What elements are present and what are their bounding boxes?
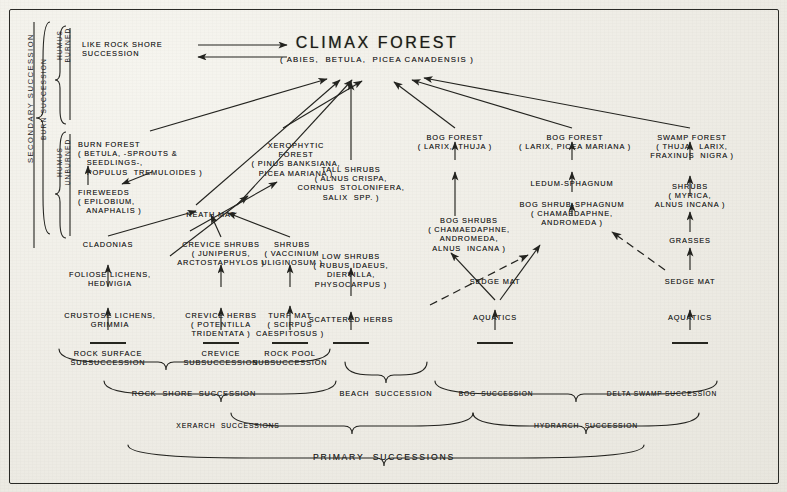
node-bog-shrub-sphagnum: BOG SHRUB-SPHAGNUM ( CHAMAEDAPHNE, ANDRO…	[520, 200, 625, 228]
node-shrubs-myrica: SHRUBS ( MYRICA, ALNUS INCANA )	[655, 182, 726, 210]
grouping-beach: BEACH SUCCESSION	[340, 389, 433, 398]
node-bog-forest-picea: BOG FOREST ( LARIX, PICEA MARIANA )	[519, 133, 631, 151]
node-heath-mat: HEATH MAT	[186, 210, 235, 219]
node-low-shrubs: LOW SHRUBS ( RUBUS IDAEUS, DIERVILLA, PH…	[314, 252, 389, 289]
node-foliose-lichens: FOLIOSE LICHENS, HEDWIGIA	[69, 270, 151, 288]
node-crustose-lichens: CRUSTOSE LICHENS, GRIMMIA	[64, 311, 156, 329]
node-swamp-forest: SWAMP FOREST ( THUJA, LARIX, FRAXINUS NI…	[650, 133, 733, 161]
subsuccession-rock-surface: ROCK SURFACE SUBSUCCESSION	[70, 349, 145, 367]
node-burn-forest: BURN FOREST ( BETULA, -SPROUTS & SEEDLIN…	[78, 140, 203, 177]
rule-rock-pool	[272, 342, 308, 344]
rule-delta	[672, 342, 708, 344]
burn-succession-label: BURN SUCCESSION	[40, 34, 49, 164]
grouping-primary: PRIMARY SUCCESSIONS	[313, 453, 455, 462]
node-cladonias: CLADONIAS	[83, 240, 133, 249]
node-like-rock-shore: LIKE ROCK SHORE SUCCESSION	[82, 40, 163, 58]
grouping-hydrarch: HYDRARCH SUCCESSION	[534, 421, 638, 430]
grouping-xerarch: XERARCH SUCCESSIONS	[176, 421, 280, 430]
grouping-bog: BOG SUCCESSION	[459, 389, 534, 398]
rule-rock-surface	[90, 342, 126, 344]
node-grasses: GRASSES	[669, 236, 711, 245]
diagram-canvas: SECONDARY SUCCESSION BURN SUCCESSION HUM…	[0, 0, 787, 492]
node-scattered-herbs: SCATTERED HERBS	[309, 315, 393, 324]
page-title-species: ( ABIES, BETULA, PICEA CANADENSIS )	[280, 55, 474, 64]
page-title: CLIMAX FOREST	[296, 33, 459, 52]
node-sedge-mat-delta: SEDGE MAT	[665, 277, 716, 286]
secondary-succession-label: SECONDARY SUCCESSION	[27, 18, 36, 178]
node-aquatics-delta: AQUATICS	[668, 313, 712, 322]
subsuccession-crevice: CREVICE SUBSUCCESSION	[183, 349, 258, 367]
node-crevice-shrubs: CREVICE SHRUBS ( JUNIPERUS, ARCTOSTAPHYL…	[177, 240, 265, 268]
humus-burned-label: HUMUS BURNED	[56, 14, 72, 76]
rule-beach	[333, 342, 369, 344]
node-sedge-mat-bog: SEDGE MAT	[470, 277, 521, 286]
node-bog-shrubs: BOG SHRUBS ( CHAMAEDAPHNE, ANDROMEDA, AL…	[428, 216, 510, 253]
node-crevice-herbs: CREVICE HERBS ( POTENTILLA TRIDENTATA )	[185, 311, 256, 339]
rule-bog	[477, 342, 513, 344]
node-fireweeds: FIREWEEDS ( EPILOBIUM, ANAPHALIS )	[78, 188, 142, 216]
node-tall-shrubs: TALL SHRUBS ( ALNUS CRISPA, CORNUS STOLO…	[297, 165, 404, 202]
node-aquatics-bog: AQUATICS	[473, 313, 517, 322]
grouping-delta-swamp: DELTA SWAMP SUCCESSION	[607, 389, 717, 398]
grouping-rock-shore: ROCK SHORE SUCCESSION	[132, 389, 256, 398]
humus-unburned-label: HUMUS UNBURNED	[56, 124, 72, 200]
subsuccession-rock-pool: ROCK POOL SUBSUCCESSION	[252, 349, 327, 367]
node-ledum-sphagnum: LEDUM-SPHAGNUM	[531, 179, 614, 188]
rule-crevice	[203, 342, 239, 344]
node-bog-forest-thuja: BOG FOREST ( LARIX, THUJA )	[418, 133, 492, 151]
